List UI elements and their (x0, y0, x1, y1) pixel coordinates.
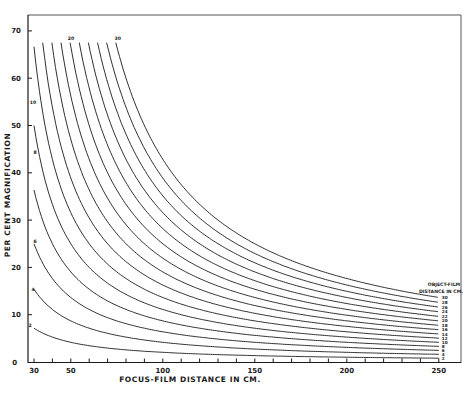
legend-title-line2: DISTANCE IN CM. (419, 289, 463, 294)
curve-end-label: 28 (442, 300, 448, 305)
curve-start-label-2: 2 (28, 323, 31, 328)
curve-2 (34, 328, 439, 358)
curve-end-label: 30 (442, 295, 448, 300)
curve-22 (79, 43, 438, 317)
curve-24 (88, 43, 438, 312)
y-tick-label: 10 (11, 311, 21, 319)
y-axis-label: PER CENT MAGNIFICATION (3, 133, 12, 258)
curve-start-label-6: 6 (33, 239, 36, 244)
curve-end-label: 20 (442, 318, 448, 323)
x-tick-label: 250 (431, 367, 446, 375)
y-tick-label: 40 (11, 169, 21, 177)
curves (34, 43, 439, 359)
chart-canvas: 0102030405060703050100150200250 24681012… (0, 0, 471, 393)
curve-8 (34, 190, 439, 346)
curve-26 (98, 43, 438, 307)
y-tick-label: 30 (11, 217, 21, 225)
x-tick-label: 50 (66, 367, 76, 375)
legend-title-line1: OBJECT-FILM (428, 282, 461, 287)
x-tick-label: 30 (29, 367, 39, 375)
curve-top-label-20: 20 (68, 36, 74, 41)
curve-start-label-10: 10 (30, 100, 36, 105)
curve-12 (34, 47, 439, 339)
curve-end-label: 14 (442, 332, 448, 337)
curve-labels: 246810121416182022242628302030108642 (28, 36, 447, 361)
curve-18 (61, 43, 438, 326)
curve-top-label-30: 30 (114, 36, 120, 41)
y-tick-label: 60 (11, 75, 21, 83)
x-axis-label: FOCUS-FILM DISTANCE IN CM. (119, 375, 261, 384)
x-tick-label: 200 (339, 367, 354, 375)
curve-start-label-8: 8 (33, 150, 36, 155)
y-tick-label: 50 (11, 122, 21, 130)
curve-end-label: 24 (442, 309, 448, 314)
curve-end-label: 22 (442, 314, 448, 319)
curve-end-label: 16 (442, 327, 448, 332)
y-tick-label: 20 (11, 264, 21, 272)
curve-4 (34, 289, 439, 354)
curve-end-label: 26 (442, 305, 448, 310)
curve-28 (107, 43, 438, 303)
magnification-chart: 0102030405060703050100150200250 24681012… (0, 0, 471, 393)
x-tick-label: 150 (247, 367, 262, 375)
y-tick-label: 70 (11, 27, 21, 35)
y-tick-label: 0 (12, 359, 17, 367)
curve-start-label-4: 4 (31, 287, 34, 292)
curve-end-label: 18 (442, 323, 448, 328)
x-tick-label: 100 (155, 367, 170, 375)
